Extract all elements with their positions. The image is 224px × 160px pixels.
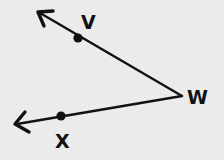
ray-wv [40, 13, 182, 96]
label-v: V [81, 11, 96, 33]
point-v [73, 33, 82, 42]
label-x: X [55, 130, 70, 152]
angle-diagram: V X W [0, 0, 224, 160]
diagram-svg: V X W [0, 0, 224, 160]
ray-wx [17, 96, 182, 124]
label-w: W [187, 86, 208, 108]
point-x [56, 111, 65, 120]
